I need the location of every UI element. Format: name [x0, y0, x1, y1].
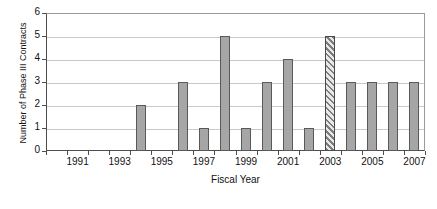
bar-1999	[241, 128, 251, 151]
x-tick-mark-12	[299, 151, 300, 155]
x-tick-mark-8	[214, 151, 215, 155]
bar-2007	[409, 82, 419, 151]
x-tick-label-2007: 2007	[394, 156, 434, 167]
y-tick-label-1: 1	[22, 121, 40, 132]
bar-2004	[346, 82, 356, 151]
y-tick-label-5: 5	[22, 29, 40, 40]
x-tick-label-1991: 1991	[58, 156, 98, 167]
bar-2006	[388, 82, 398, 151]
x-tick-mark-14	[341, 151, 342, 155]
clipped-caption	[0, 202, 437, 209]
x-tick-mark-3	[109, 151, 110, 155]
x-tick-label-1997: 1997	[184, 156, 224, 167]
x-tick-mark-0	[46, 151, 47, 155]
x-tick-mark-15	[362, 151, 363, 155]
y-tick-label-3: 3	[22, 75, 40, 86]
y-tick-label-2: 2	[22, 98, 40, 109]
bar-series	[46, 13, 425, 151]
y-tick-label-6: 6	[22, 6, 40, 17]
x-tick-label-2001: 2001	[268, 156, 308, 167]
x-tick-mark-6	[172, 151, 173, 155]
bar-2003	[325, 36, 335, 151]
x-tick-mark-17	[404, 151, 405, 155]
x-tick-label-1999: 1999	[226, 156, 266, 167]
y-tick-label-4: 4	[22, 52, 40, 63]
x-tick-mark-11	[278, 151, 279, 155]
x-tick-label-2005: 2005	[352, 156, 392, 167]
x-tick-mark-4	[130, 151, 131, 155]
bar-1996	[178, 82, 188, 151]
bar-chart: Number of Phase III Contracts 0123456 19…	[0, 0, 437, 209]
x-tick-mark-7	[193, 151, 194, 155]
bar-2001	[283, 59, 293, 151]
y-tick-label-0: 0	[22, 144, 40, 155]
x-tick-mark-18	[425, 151, 426, 155]
x-tick-label-2003: 2003	[310, 156, 350, 167]
x-axis-title: Fiscal Year	[46, 174, 425, 185]
x-tick-mark-9	[236, 151, 237, 155]
bar-1997	[199, 128, 209, 151]
bar-2000	[262, 82, 272, 151]
bar-2002	[304, 128, 314, 151]
x-tick-mark-1	[67, 151, 68, 155]
x-tick-mark-16	[383, 151, 384, 155]
x-tick-label-1995: 1995	[142, 156, 182, 167]
x-tick-mark-10	[257, 151, 258, 155]
bar-2005	[367, 82, 377, 151]
x-tick-mark-13	[320, 151, 321, 155]
x-tick-label-1993: 1993	[100, 156, 140, 167]
x-tick-mark-2	[88, 151, 89, 155]
bar-1998	[220, 36, 230, 151]
bar-1994	[136, 105, 146, 151]
x-tick-mark-5	[151, 151, 152, 155]
